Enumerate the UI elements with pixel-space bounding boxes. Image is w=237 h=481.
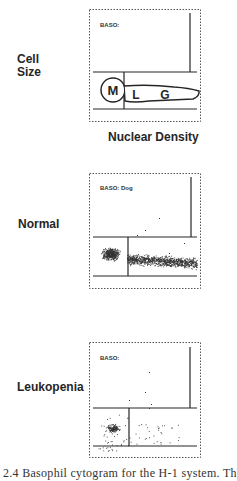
cell-size-label-line2: Size: [17, 66, 41, 79]
cytogram-leukopenia: BASO:: [89, 342, 201, 458]
figure-caption: e 2.4 Basophil cytogram for the H-1 syst…: [0, 466, 237, 481]
region-m: M: [108, 83, 119, 98]
cytogram-normal: BASO: Dog: [89, 173, 201, 289]
region-l: L: [132, 88, 139, 102]
panel2-title: BASO: Dog: [100, 185, 133, 191]
panel1-title: BASO:: [100, 22, 119, 28]
region-g: G: [160, 88, 169, 102]
leukopenia-label: Leukopenia: [17, 381, 84, 394]
normal-label: Normal: [18, 218, 59, 231]
cytogram-schematic: M L G BASO:: [89, 9, 201, 122]
x-axis-label: Nuclear Density: [108, 131, 199, 144]
cell-size-label: Cell Size: [17, 53, 41, 79]
panel3-title: BASO:: [100, 355, 119, 361]
